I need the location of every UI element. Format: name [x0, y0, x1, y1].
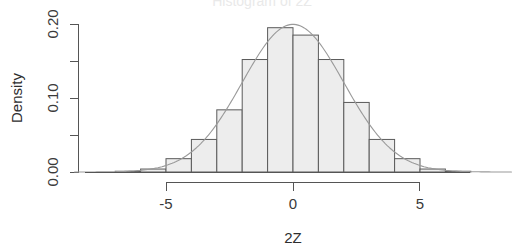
x-axis-tick-label-0: 0 — [289, 195, 297, 212]
histogram-bar — [268, 28, 293, 172]
y-axis-title: Density — [8, 72, 25, 123]
histogram-bar — [293, 35, 318, 172]
x-axis-tick-label-5: 5 — [416, 195, 424, 212]
y-axis-tick-label-0.10: 0.10 — [44, 83, 61, 112]
histogram-bar — [191, 139, 216, 172]
histogram-bar — [344, 102, 369, 172]
plot-canvas: Histogram of 2Z 0.20 0.10 0.00 Density -… — [0, 0, 524, 252]
x-axis-group: -5 0 5 2Z — [159, 183, 424, 247]
y-axis-tick-label-0.00: 0.00 — [44, 157, 61, 186]
histogram-plot-figure: Histogram of 2Z 0.20 0.10 0.00 Density -… — [0, 0, 524, 252]
y-axis-tick-label-0.20: 0.20 — [44, 9, 61, 38]
y-axis-group: 0.20 0.10 0.00 Density — [8, 9, 79, 186]
x-axis-title: 2Z — [284, 229, 302, 246]
plot-title-clipped: Histogram of 2Z — [212, 0, 312, 9]
histogram-bar — [369, 139, 394, 172]
x-axis-tick-label--5: -5 — [159, 195, 172, 212]
histogram-bars-layer — [115, 28, 471, 172]
